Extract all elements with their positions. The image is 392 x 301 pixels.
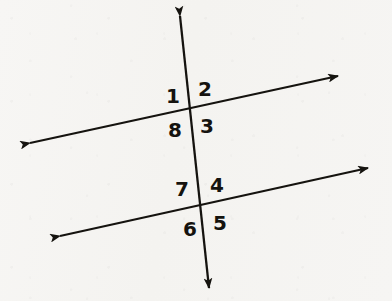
angle-label-8: 8	[168, 120, 182, 140]
transversal-line	[180, 16, 209, 288]
geometry-diagram: 1 2 3 8 7 4 5 6	[0, 0, 392, 301]
upper-parallel-line	[30, 76, 338, 143]
angle-label-3: 3	[200, 116, 214, 136]
angle-label-4: 4	[210, 175, 224, 195]
angle-label-5: 5	[213, 213, 227, 233]
diagram-lines-svg	[0, 0, 392, 301]
angle-label-1: 1	[166, 86, 180, 106]
angle-label-7: 7	[175, 179, 189, 199]
angle-label-2: 2	[198, 79, 212, 99]
angle-label-6: 6	[183, 219, 197, 239]
